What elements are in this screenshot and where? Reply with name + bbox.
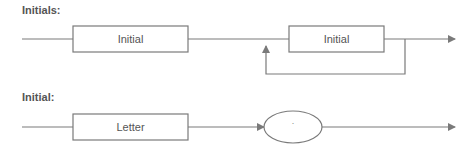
railroad-diagram: [0, 0, 473, 151]
nonterminal-label-initial-1: Initial: [73, 26, 188, 52]
nonterminal-label-letter: Letter: [73, 114, 188, 140]
nonterminal-label-initial-2: Initial: [289, 26, 384, 52]
terminal-label-period: .: [264, 116, 322, 126]
